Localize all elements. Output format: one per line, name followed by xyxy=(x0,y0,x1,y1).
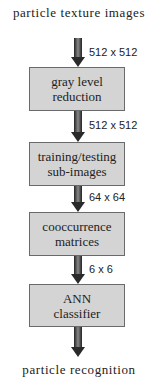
dimension-label: 512 x 512 xyxy=(89,119,137,131)
dimension-label: 512 x 512 xyxy=(89,46,137,58)
step-label: ANN xyxy=(54,291,101,306)
down-arrow-icon xyxy=(71,111,85,142)
step-label: reduction xyxy=(51,89,103,104)
output-label: particle recognition xyxy=(0,362,158,378)
down-arrow-icon xyxy=(71,38,85,67)
step-label: training/testing xyxy=(38,149,117,164)
step-label: classifier xyxy=(54,306,101,321)
step-label: sub-images xyxy=(38,164,117,179)
step-label: cooccurrence xyxy=(42,219,111,234)
step-cooccurrence-matrices: cooccurrence matrices xyxy=(29,212,125,256)
input-label: particle texture images xyxy=(0,5,158,21)
dimension-label: 6 x 6 xyxy=(89,263,113,275)
step-gray-level-reduction: gray level reduction xyxy=(29,67,125,111)
step-training-testing-sub-images: training/testing sub-images xyxy=(29,142,125,186)
step-ann-classifier: ANN classifier xyxy=(29,284,125,327)
down-arrow-icon xyxy=(71,256,85,284)
step-label: matrices xyxy=(42,234,111,249)
dimension-label: 64 x 64 xyxy=(89,191,125,203)
down-arrow-icon xyxy=(71,186,85,212)
down-arrow-icon xyxy=(71,327,85,357)
step-label: gray level xyxy=(51,74,103,89)
